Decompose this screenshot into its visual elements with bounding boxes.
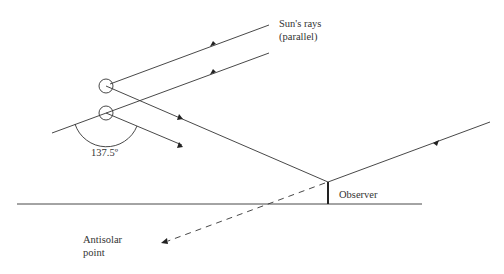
sun-rays-label: Sun's rays (parallel)	[279, 17, 321, 43]
rainbow-geometry-diagram	[0, 0, 504, 274]
sun-ray-right	[328, 122, 490, 182]
sun-rays-label-line1: Sun's rays	[279, 17, 321, 30]
refracted-ray-to-observer	[106, 86, 328, 182]
observer-label: Observer	[339, 188, 377, 201]
refracted-ray-lower	[106, 113, 183, 148]
angle-arc	[75, 124, 137, 147]
antisolar-label-line2: point	[83, 246, 122, 259]
sun-rays-label-line2: (parallel)	[279, 30, 321, 43]
arrow-icon	[433, 140, 439, 146]
sun-ray-1	[110, 25, 269, 84]
angle-label: 137.5º	[91, 146, 118, 159]
antisolar-label-line1: Antisolar	[83, 233, 122, 246]
arrow-icon	[161, 238, 168, 244]
antisolar-point-label: Antisolar point	[83, 233, 122, 259]
antisolar-direction	[161, 183, 325, 244]
